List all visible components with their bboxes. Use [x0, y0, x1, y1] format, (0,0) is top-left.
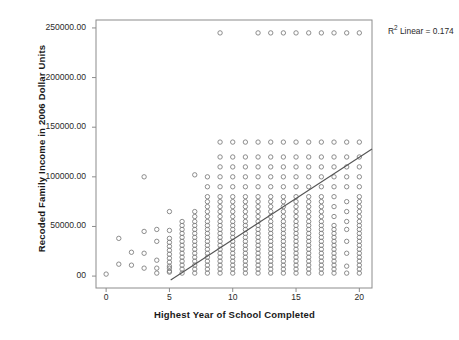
- y-tick-label: 100000.00: [45, 171, 86, 181]
- x-tick-label: 0: [91, 292, 121, 302]
- y-tick-label: 250000.00: [45, 22, 86, 32]
- x-tick-label: 15: [281, 292, 311, 302]
- y-tick-label: 50000.00: [50, 220, 86, 230]
- y-axis-title: Recoded Family Income in 2006 Dollar Uni…: [36, 19, 47, 279]
- y-tick-label: 200000.00: [45, 72, 86, 82]
- x-axis-title: Highest Year of School Completed: [96, 309, 373, 320]
- r-squared-value-text: Linear = 0.174: [398, 26, 454, 36]
- r-squared-annotation: R2 Linear = 0.174: [388, 24, 454, 36]
- y-tick-label: 00: [76, 270, 86, 280]
- y-tick-label: 150000.00: [45, 121, 86, 131]
- x-tick-label: 5: [154, 292, 184, 302]
- x-tick-label: 10: [218, 292, 248, 302]
- x-tick-label: 20: [344, 292, 374, 302]
- scatter-plot-figure: Recoded Family Income in 2006 Dollar Uni…: [0, 0, 459, 340]
